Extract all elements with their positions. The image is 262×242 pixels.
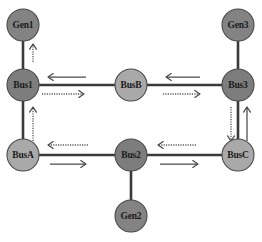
flow-busc-bus2-left-head <box>158 142 163 149</box>
node-gen3[interactable] <box>222 9 254 41</box>
node-bus2[interactable] <box>115 139 147 171</box>
node-bus1[interactable] <box>7 69 39 101</box>
flow-bus1-busb-right-icon <box>42 91 84 98</box>
power-system-diagram: Gen1Gen3Gen2Bus1BusBBus3BusABus2BusC <box>0 0 262 242</box>
flow-bus3-busb-left-icon <box>166 74 200 81</box>
flow-bus2-busa-left-icon <box>48 142 88 149</box>
flow-bus2-busa-left-head <box>48 142 53 149</box>
node-busa[interactable] <box>7 139 39 171</box>
flow-busa-bus2-right-icon <box>50 161 86 168</box>
node-gen1[interactable] <box>7 9 39 41</box>
branch-layer <box>23 25 238 216</box>
node-busc[interactable] <box>222 139 254 171</box>
node-busb[interactable] <box>115 69 147 101</box>
node-bus3[interactable] <box>222 69 254 101</box>
flow-bus3-busc-down-icon <box>228 107 235 141</box>
flow-bus2-busc-right-icon <box>160 161 198 168</box>
node-gen2[interactable] <box>115 200 147 232</box>
network-canvas: Gen1Gen3Gen2Bus1BusBBus3BusABus2BusC <box>0 0 262 242</box>
flow-busc-bus3-up-icon <box>244 107 251 141</box>
flow-busb-bus3-right-icon <box>163 91 200 98</box>
flow-busc-bus2-left-icon <box>158 142 196 149</box>
flow-gen1-bus1-up-icon <box>30 44 37 62</box>
flow-busb-bus1-left-icon <box>48 74 86 81</box>
flow-bus1-busa-up-icon <box>30 107 37 141</box>
